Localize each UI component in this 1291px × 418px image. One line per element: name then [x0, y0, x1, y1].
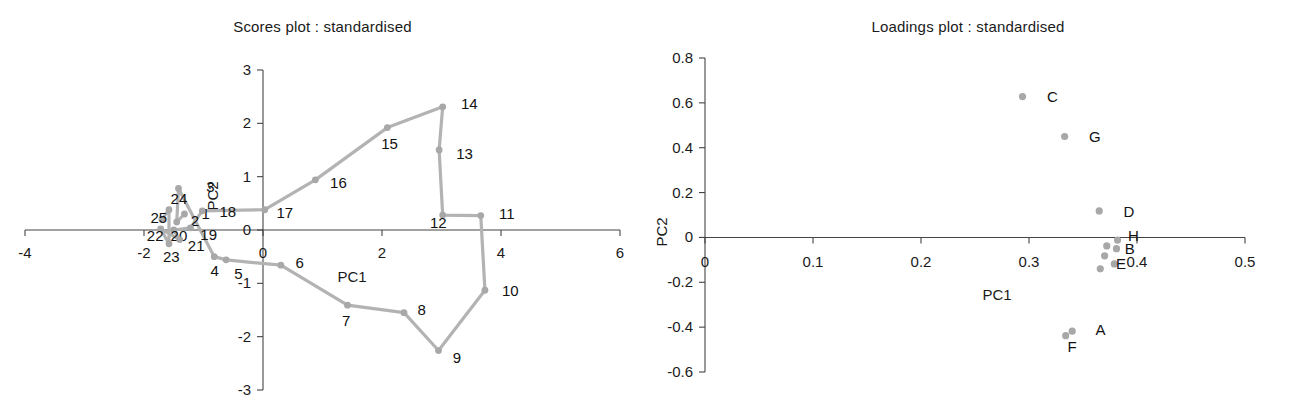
data-point-label: C	[1047, 88, 1058, 105]
data-point	[482, 287, 489, 294]
y-tick-label: -2	[238, 328, 251, 345]
data-point-label: 23	[163, 248, 180, 265]
scores-plot-canvas: -4-20246-3-2-10123PC1PC21234567891011121…	[0, 0, 645, 418]
x-tick-label: 2	[378, 244, 386, 261]
data-point-label: B	[1125, 240, 1135, 257]
x-tick-label: -2	[137, 244, 150, 261]
x-tick-label: 0	[259, 244, 267, 261]
data-point-label: 6	[296, 254, 304, 271]
data-point-label: 24	[171, 190, 188, 207]
data-point-label: 10	[502, 282, 519, 299]
x-axis-label: PC1	[982, 286, 1011, 303]
data-point-label: 21	[188, 237, 205, 254]
x-axis-label: PC1	[337, 268, 366, 285]
y-tick-label: 2	[243, 114, 251, 131]
data-point	[199, 207, 206, 214]
y-axis-label: PC2	[653, 217, 670, 246]
data-point	[1096, 207, 1103, 214]
data-point	[173, 219, 180, 226]
x-tick-label: 0.2	[911, 253, 932, 270]
data-point	[1061, 133, 1068, 140]
data-point-label: 5	[234, 265, 242, 282]
y-tick-label: 0.8	[672, 49, 693, 66]
data-point-label: 11	[499, 205, 515, 222]
y-tick-label: 0	[685, 228, 693, 245]
x-tick-label: 0.5	[1235, 253, 1256, 270]
loadings-plot-panel: Loadings plot : standardised 00.10.20.30…	[645, 0, 1291, 418]
y-tick-label: -0.6	[667, 363, 693, 380]
data-point	[1019, 93, 1026, 100]
x-tick-label: -4	[18, 244, 31, 261]
data-point	[1113, 245, 1120, 252]
x-tick-label: 0.3	[1019, 253, 1040, 270]
data-point-label: 13	[456, 145, 473, 162]
data-point	[477, 212, 484, 219]
data-point-label: 22	[147, 227, 164, 244]
data-point	[1114, 237, 1121, 244]
data-point	[384, 124, 391, 131]
data-point	[1101, 252, 1108, 259]
data-point	[401, 309, 408, 316]
data-point	[344, 302, 351, 309]
data-point	[439, 103, 446, 110]
y-tick-label: 0.4	[672, 139, 693, 156]
y-tick-label: -0.2	[667, 273, 693, 290]
data-point-label: F	[1067, 338, 1076, 355]
data-point	[435, 347, 442, 354]
x-tick-label: 0.1	[803, 253, 824, 270]
data-point	[1097, 265, 1104, 272]
x-tick-label: 6	[616, 244, 624, 261]
y-tick-label: 1	[243, 168, 251, 185]
data-point	[187, 224, 194, 231]
data-point-label: 15	[381, 135, 398, 152]
data-point	[211, 253, 218, 260]
data-point-label: 3	[206, 178, 214, 195]
data-point	[277, 262, 284, 269]
data-point-label: 8	[418, 301, 426, 318]
x-tick-label: 4	[497, 244, 505, 261]
scores-plot-panel: Scores plot : standardised -4-20246-3-2-…	[0, 0, 645, 418]
data-point-label: 16	[330, 174, 347, 191]
y-tick-label: 0.2	[672, 184, 693, 201]
data-point	[261, 206, 268, 213]
data-point	[181, 211, 188, 218]
data-point	[312, 176, 319, 183]
data-point-label: D	[1124, 203, 1135, 220]
data-point-label: 7	[342, 312, 350, 329]
data-point	[166, 240, 173, 247]
figure-root: Scores plot : standardised -4-20246-3-2-…	[0, 0, 1291, 418]
y-tick-label: -0.4	[667, 318, 693, 335]
data-point-label: 4	[210, 262, 218, 279]
data-point	[1103, 242, 1110, 249]
data-point	[223, 256, 230, 263]
y-tick-label: 0	[243, 221, 251, 238]
data-point-label: A	[1095, 321, 1105, 338]
data-point	[436, 147, 443, 154]
y-tick-label: -3	[238, 381, 251, 398]
data-point-label: 18	[219, 203, 236, 220]
data-point-label: E	[1116, 255, 1126, 272]
x-tick-label: 0	[701, 253, 709, 270]
loadings-plot-canvas: 00.10.20.30.40.5-0.6-0.4-0.200.20.40.60.…	[645, 0, 1291, 418]
data-point-label: 12	[430, 214, 447, 231]
data-point-label: 14	[461, 95, 478, 112]
data-point-label: 17	[277, 204, 294, 221]
y-tick-label: 3	[243, 61, 251, 78]
data-point-label: G	[1089, 128, 1101, 145]
data-point	[176, 236, 183, 243]
data-point-label: 25	[150, 209, 167, 226]
data-point-label: 9	[453, 349, 461, 366]
data-point	[1069, 328, 1076, 335]
y-tick-label: 0.6	[672, 94, 693, 111]
